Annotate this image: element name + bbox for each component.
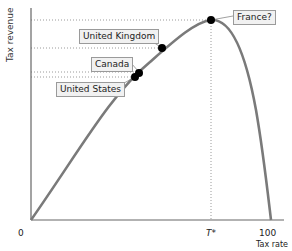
hundred-tick: 100 (259, 228, 276, 238)
tstar-tick: T* (206, 228, 216, 238)
us-point (131, 73, 139, 81)
canada-label: Canada (91, 57, 133, 72)
y-axis-label: Tax revenue (5, 7, 15, 62)
origin-tick: 0 (18, 228, 24, 238)
uk-label: United Kingdom (79, 29, 159, 44)
us-label: United States (56, 82, 125, 97)
laffer-curve (31, 20, 271, 220)
x-axis-label: Tax rate (256, 240, 288, 249)
uk-point (158, 44, 166, 52)
france-point (207, 16, 215, 24)
france-label: France? (233, 10, 276, 25)
